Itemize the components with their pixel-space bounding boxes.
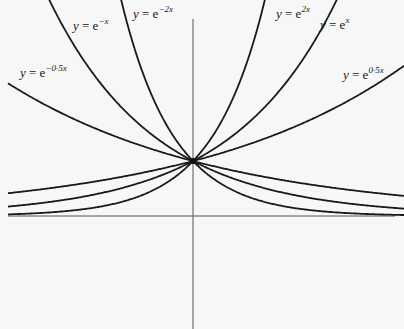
common-point-marker — [190, 158, 196, 164]
curve-y-e-x- — [8, 0, 337, 207]
curve-label-e-neg-x: y = e−x — [73, 17, 108, 32]
curve-label-e-x: y = ex — [320, 16, 349, 31]
curve-y-e-0-5x- — [8, 83, 404, 196]
curve-label-e-neg-2x: y = e−2x — [133, 5, 173, 20]
curve-y-e-2x- — [121, 0, 404, 215]
curve-label-e-half-x: y = e0·5x — [343, 66, 384, 81]
curve-y-e-2x- — [8, 0, 265, 214]
chart-canvas — [0, 0, 404, 329]
curves-group — [8, 0, 404, 215]
curve-label-e-neg-half-x: y = e−0·5x — [20, 64, 67, 79]
curve-label-e-2x: y = e2x — [276, 5, 310, 20]
